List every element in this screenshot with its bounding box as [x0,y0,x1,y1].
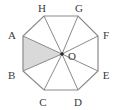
vertex-label-a: A [8,29,16,41]
vertex-label-g: G [75,2,83,14]
vertex-label-d: D [74,96,82,108]
octagon-figure: A B C D E F G H O [0,0,121,110]
vertex-label-h: H [38,2,46,14]
vertex-label-e: E [103,69,110,81]
center-label-o: O [68,50,76,62]
center-point-dot [60,52,64,56]
vertex-label-b: B [8,69,15,81]
vertex-label-f: F [103,29,109,41]
vertex-label-c: C [39,96,46,108]
octagon-diagram-svg: A B C D E F G H O [0,0,121,110]
